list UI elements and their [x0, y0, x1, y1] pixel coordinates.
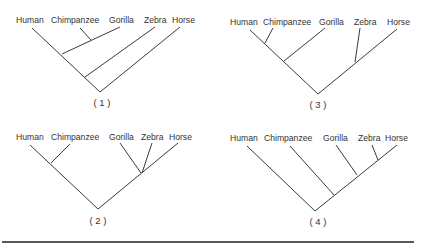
tree-branch [318, 29, 397, 94]
taxon-label-chimpanzee: Chimpanzee [263, 17, 311, 27]
tree-branch [51, 144, 70, 163]
tree-branch [336, 145, 357, 175]
tree-branch [98, 143, 178, 209]
taxon-label-gorilla: Gorilla [109, 132, 134, 142]
tree-branch [265, 28, 273, 43]
tree-branch [315, 145, 397, 211]
tree-branch [284, 28, 325, 61]
tree-caption: ( 3 ) [310, 99, 327, 110]
taxon-label-zebra: Zebra [141, 132, 164, 142]
tree-branch [355, 28, 360, 62]
taxon-label-gorilla: Gorilla [319, 17, 344, 27]
taxon-label-horse: Horse [385, 133, 408, 143]
tree-branch [100, 27, 180, 92]
tree-caption: ( 4 ) [310, 216, 327, 227]
tree-caption: ( 1 ) [94, 97, 111, 108]
tree-branch [32, 28, 100, 92]
taxon-label-chimpanzee: Chimpanzee [51, 132, 99, 142]
tree-branch [85, 27, 155, 77]
tree-1: HumanChimpanzeeGorillaZebraHorse( 1 ) [16, 15, 195, 108]
phylogenetic-trees-figure: HumanChimpanzeeGorillaZebraHorse( 1 ) Hu… [0, 0, 430, 248]
taxon-label-horse: Horse [387, 17, 410, 27]
tree-branch [120, 143, 141, 173]
tree-branch [62, 27, 120, 54]
taxon-label-horse: Horse [172, 15, 195, 25]
taxon-label-human: Human [230, 133, 258, 143]
taxon-label-gorilla: Gorilla [109, 15, 134, 25]
taxon-label-zebra: Zebra [354, 17, 377, 27]
taxon-label-zebra: Zebra [144, 15, 167, 25]
taxon-label-human: Human [16, 15, 44, 25]
taxon-label-chimpanzee: Chimpanzee [264, 133, 312, 143]
tree-3: HumanChimpanzeeGorillaZebraHorse( 3 ) [230, 17, 410, 110]
taxon-label-human: Human [16, 132, 44, 142]
taxon-label-gorilla: Gorilla [323, 133, 348, 143]
tree-2: HumanChimpanzeeGorillaZebraHorse( 2 ) [16, 132, 192, 226]
tree-branch [250, 30, 318, 94]
taxon-label-zebra: Zebra [358, 133, 381, 143]
tree-4: HumanChimpanzeeGorillaZebraHorse( 4 ) [230, 133, 408, 227]
tree-branch [30, 145, 98, 209]
taxon-label-horse: Horse [169, 132, 192, 142]
taxon-label-chimpanzee: Chimpanzee [51, 15, 99, 25]
tree-branch [290, 146, 334, 195]
tree-caption: ( 2 ) [90, 215, 107, 226]
tree-branch [80, 28, 91, 40]
tree-branch [372, 145, 378, 160]
tree-branch [247, 146, 315, 211]
taxon-label-human: Human [230, 17, 258, 27]
